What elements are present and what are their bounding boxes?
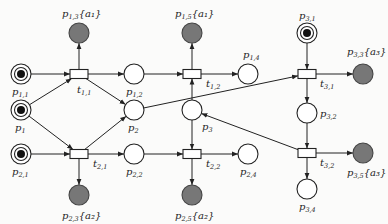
place-p15: [182, 23, 202, 43]
label-p33: p3,3{a₃}: [347, 46, 386, 59]
label-p21: p2,1: [12, 166, 29, 179]
arc-t21-to-p2: [85, 116, 127, 149]
place-p23: [69, 185, 89, 205]
place-p34: [297, 179, 317, 199]
place-p35: [353, 143, 373, 163]
place-p25: [182, 185, 202, 205]
label-t22: t2,2: [206, 158, 220, 171]
label-p22: p2,2: [126, 166, 143, 179]
token-icon: [303, 29, 311, 37]
transition-t22: [183, 150, 201, 159]
label-p23: p2,3{a₂}: [62, 210, 101, 223]
arc-p2-to-t31: [144, 76, 298, 108]
arc-p1-to-t21: [29, 116, 73, 149]
label-p32: p3,2: [320, 108, 337, 121]
transition-t21: [70, 150, 88, 159]
label-t21: t2,1: [93, 158, 107, 171]
label-p1: p1: [15, 122, 26, 135]
transition-t12: [183, 70, 201, 79]
label-p3: p3: [202, 121, 213, 134]
arc-p1-to-t11: [29, 79, 71, 105]
token-icon: [17, 70, 25, 78]
place-p13: [69, 23, 89, 43]
token-icon: [17, 106, 25, 114]
label-p24: p2,4: [240, 166, 257, 179]
place-p3: [182, 100, 202, 120]
petri-net-diagram: p1,1p1p2,1p1,3{a₁}p2,3{a₂}p1,2p2p2,2p1,5…: [0, 0, 388, 224]
arc-t11-to-p2: [86, 79, 126, 105]
label-p35: p3,5{a₃}: [347, 167, 386, 180]
label-p2: p2: [128, 122, 139, 135]
label-t31: t3,1: [320, 78, 334, 91]
place-p2: [124, 100, 144, 120]
label-p15: p1,5{a₁}: [175, 8, 214, 21]
label-t12: t1,2: [206, 78, 220, 91]
petri-net-svg: p1,1p1p2,1p1,3{a₁}p2,3{a₂}p1,2p2p2,2p1,5…: [0, 0, 388, 224]
place-p22: [124, 144, 144, 164]
transition-t31: [298, 70, 316, 79]
label-p13: p1,3{a₁}: [62, 8, 101, 21]
token-icon: [17, 150, 25, 158]
place-p24: [238, 144, 258, 164]
label-p31: p3,1: [299, 10, 316, 23]
place-p12: [124, 64, 144, 84]
place-p33: [353, 64, 373, 84]
label-p25: p2,5{a₂}: [175, 210, 214, 223]
label-p14: p1,4: [243, 49, 260, 62]
label-t11: t1,1: [77, 84, 91, 97]
transition-t32: [298, 149, 316, 158]
transition-t11: [70, 70, 88, 79]
place-p14: [238, 64, 258, 84]
label-p11: p1,1: [12, 86, 29, 99]
label-p34: p3,4: [299, 201, 316, 214]
label-p12: p1,2: [126, 86, 143, 99]
label-t32: t3,2: [320, 157, 334, 170]
place-p32: [297, 103, 317, 123]
